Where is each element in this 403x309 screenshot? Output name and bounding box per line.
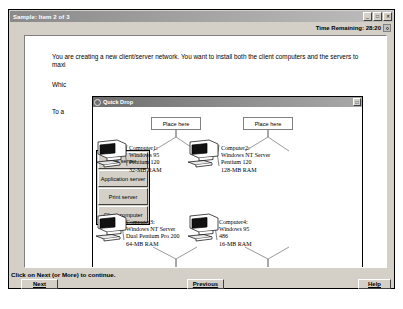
computer-2-label: Computer2: Windows NT Server Pentium 120… bbox=[221, 145, 270, 174]
system-menu-icon[interactable] bbox=[94, 99, 101, 106]
previous-button[interactable]: Previous bbox=[187, 279, 224, 289]
computer-3-os: Windows NT Server bbox=[126, 226, 180, 233]
time-remaining-label: Time Remaining: 28:20 bbox=[316, 25, 383, 31]
computer-2-cpu: Pentium 120 bbox=[221, 159, 270, 166]
quick-drop-titlebar[interactable]: Quick Drop □ bbox=[93, 97, 362, 107]
previous-button-label: Previous bbox=[193, 281, 218, 287]
computer-1-os: Windows 95 bbox=[129, 152, 162, 159]
computer-3-cpu: Dual Pentium Pro 200 bbox=[126, 233, 180, 240]
screen-root: Sample: Item 2 of 3 _ □ ✕ Time Remaining… bbox=[0, 0, 403, 309]
computer-4-os: Windows 95 bbox=[219, 226, 252, 233]
maximize-button[interactable]: □ bbox=[373, 12, 382, 21]
computer-4-name: Computer4: bbox=[219, 219, 252, 226]
computer-1-ram: 32-MB RAM bbox=[129, 167, 162, 174]
computer-1-cpu: Pentium 120 bbox=[129, 159, 162, 166]
computer-1-label: Computer1: Windows 95 Pentium 120 32-MB … bbox=[129, 145, 162, 174]
question-text-line-1: You are creating a new client/server net… bbox=[52, 52, 382, 61]
close-icon: ✕ bbox=[384, 13, 391, 20]
minimize-button[interactable]: _ bbox=[363, 12, 372, 21]
question-panel: You are creating a new client/server net… bbox=[24, 35, 387, 268]
next-button-label: Next bbox=[33, 281, 46, 287]
computer-3-label: Computer3: Windows NT Server Dual Pentiu… bbox=[126, 219, 180, 248]
computer-4-cpu: 486 bbox=[219, 233, 252, 240]
application-window: Sample: Item 2 of 3 _ □ ✕ Time Remaining… bbox=[8, 9, 395, 289]
computer-4-ram: 16-MB RAM bbox=[219, 241, 252, 248]
quick-drop-body: Place here Place here Place here Place h… bbox=[93, 107, 362, 268]
window-controls: _ □ ✕ bbox=[363, 12, 392, 21]
computer-2-name: Computer2: bbox=[221, 145, 270, 152]
help-button[interactable]: Help bbox=[358, 279, 391, 289]
window-titlebar[interactable]: Sample: Item 2 of 3 _ □ ✕ bbox=[10, 11, 393, 22]
close-button[interactable]: ✕ bbox=[383, 12, 392, 21]
question-text-line-3: Whic bbox=[52, 81, 66, 88]
quick-drop-dialog: Quick Drop □ Place here Place here Place… bbox=[92, 96, 363, 268]
clock-icon bbox=[383, 24, 391, 32]
minimize-icon: _ bbox=[364, 13, 371, 20]
computer-2-icon bbox=[187, 139, 221, 169]
computer-3-ram: 64-MB RAM bbox=[126, 241, 180, 248]
next-button[interactable]: Next bbox=[21, 279, 58, 289]
time-remaining-bar: Time Remaining: 28:20 bbox=[10, 22, 393, 33]
quick-drop-close-button[interactable]: □ bbox=[353, 98, 361, 106]
question-text-line-4: To a bbox=[52, 108, 64, 115]
computer-4-icon bbox=[187, 213, 221, 243]
window-title: Sample: Item 2 of 3 bbox=[10, 14, 70, 20]
computer-1-name: Computer1: bbox=[129, 145, 162, 152]
question-text-line-2: maxi bbox=[52, 61, 66, 68]
status-message: Click on Next (or More) to continue. bbox=[10, 269, 393, 279]
maximize-icon: □ bbox=[374, 13, 381, 20]
computer-3-name: Computer3: bbox=[126, 219, 180, 226]
help-button-label: Help bbox=[368, 281, 381, 287]
computer-3-icon bbox=[95, 213, 129, 243]
computer-2-ram: 128-MB RAM bbox=[221, 167, 270, 174]
quick-drop-title: Quick Drop bbox=[101, 99, 133, 105]
computer-2-os: Windows NT Server bbox=[221, 152, 270, 159]
navigation-bar: Next Previous Help bbox=[10, 279, 393, 289]
computer-1-icon bbox=[95, 139, 129, 169]
computer-4-label: Computer4: Windows 95 486 16-MB RAM bbox=[219, 219, 252, 248]
